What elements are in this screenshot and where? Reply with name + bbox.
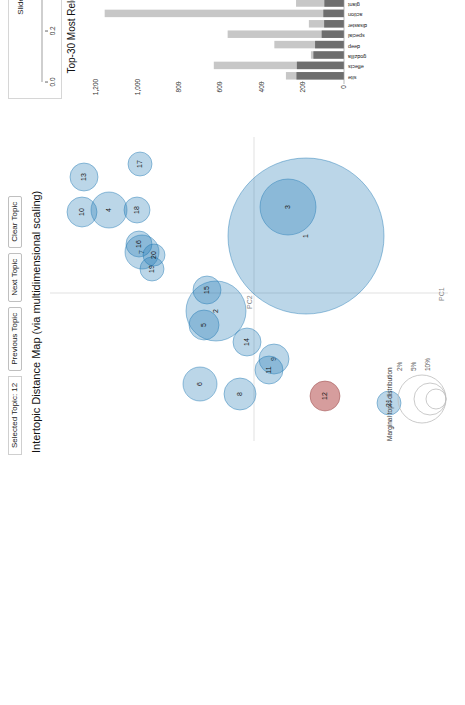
bar-topic-deep[interactable]	[315, 41, 344, 48]
bar-tick-label-0: 0	[340, 85, 347, 89]
bar-tick-label-3: 600	[216, 81, 223, 92]
topic-bubble-label-20: 20	[150, 251, 157, 259]
topic-bubble-label-1: 1	[302, 234, 309, 238]
lambda-value-label: λ = 1	[23, 0, 32, 98]
bar-overall-action[interactable]	[105, 10, 344, 17]
topic-bubble-label-2: 2	[212, 309, 219, 313]
map-title: Intertopic Distance Map (via multidimens…	[30, 191, 42, 453]
selected-topic-value: 12	[10, 383, 19, 392]
bar-tick-label-4: 800	[175, 81, 182, 92]
slider-ticks: 0.00.20.40.60.81	[45, 0, 57, 82]
relevance-slider-box[interactable]: Slide to adjust relevance metric:(2) λ =…	[8, 0, 62, 99]
term-label-action[interactable]: action	[348, 12, 362, 18]
ldavis-app: Selected Topic: 12 Previous Topic Next T…	[0, 0, 465, 465]
intertopic-map-svg[interactable]: PC1 PC2 12345678910111213141516171819202…	[44, 129, 454, 459]
bar-tick-label-2: 400	[258, 81, 265, 92]
rotated-canvas: Selected Topic: 12 Previous Topic Next T…	[0, 0, 465, 465]
bar-topic-giant[interactable]	[324, 0, 344, 7]
term-label-giant[interactable]: giant	[348, 2, 360, 8]
intertopic-distance-panel: Selected Topic: 12 Previous Topic Next T…	[4, 129, 459, 459]
topic-bubble-label-3: 3	[284, 205, 291, 209]
term-label-deep[interactable]: deep	[348, 44, 360, 50]
legend-circle-2	[426, 389, 446, 409]
bar-topic-godzilla[interactable]	[313, 51, 344, 58]
topic-bubble-label-15: 15	[203, 286, 210, 294]
topic-bubble-label-4: 4	[105, 208, 112, 212]
term-label-special[interactable]: special	[348, 33, 365, 39]
term-labels[interactable]: siteeffectsgodzilladeepspecialdisasterac…	[347, 0, 378, 81]
barchart-area[interactable]: 02004006008001,0001,200 siteeffectsgodzi…	[80, 0, 380, 121]
topic-bubble-label-16: 16	[135, 240, 142, 248]
bar-topic-disaster[interactable]	[324, 20, 344, 27]
topic-bubbles[interactable]: 123456789101112131415161718192021	[67, 152, 401, 415]
term-label-disaster[interactable]: disaster	[348, 23, 367, 29]
slider-track[interactable]	[41, 0, 43, 82]
map-area[interactable]: PC1 PC2 12345678910111213141516171819202…	[44, 129, 454, 459]
selected-topic-label: Selected Topic:	[10, 394, 19, 448]
legend-size-10: 10%	[424, 358, 431, 371]
topic-bubble-label-14: 14	[243, 338, 250, 346]
topic-bubble-label-6: 6	[196, 382, 203, 386]
legend-circle-10	[398, 375, 446, 423]
bar-tick-label-6: 1,200	[92, 78, 99, 95]
term-barchart-panel: Slide to adjust relevance metric:(2) λ =…	[4, 0, 459, 125]
clear-topic-button[interactable]: Clear Topic	[8, 196, 23, 248]
topic-bubble-label-12: 12	[321, 392, 328, 400]
bar-topic-action[interactable]	[323, 10, 344, 17]
bar-topic-effects[interactable]	[297, 62, 344, 69]
map-x-axis-label: PC1	[438, 287, 445, 301]
topic-bubble-label-10: 10	[78, 208, 85, 216]
slider-tick-0: 0.0	[45, 77, 56, 86]
topic-bubble-label-13: 13	[80, 173, 87, 181]
term-label-godzilla[interactable]: godzilla	[348, 54, 366, 60]
bar-group[interactable]	[105, 0, 344, 80]
topic-bubble-label-17: 17	[136, 160, 143, 168]
barchart-title: Top-30 Most Relevant Terms for Topic 12 …	[66, 0, 77, 125]
legend-circle-5	[414, 383, 446, 415]
barchart-svg[interactable]: 02004006008001,0001,200 siteeffectsgodzi…	[80, 0, 380, 121]
term-label-effects[interactable]: effects	[348, 64, 364, 70]
bar-tick-label-5: 1,000	[134, 78, 141, 95]
selected-topic-display: Selected Topic: 12	[8, 376, 23, 455]
topic-bubble-label-5: 5	[200, 323, 207, 327]
next-topic-button[interactable]: Next Topic	[8, 253, 23, 302]
topic-controls: Selected Topic: 12 Previous Topic Next T…	[6, 196, 24, 455]
legend-size-2: 2%	[396, 361, 403, 371]
map-y-axis-label: PC2	[246, 295, 253, 309]
topic-bubble-label-11: 11	[265, 366, 272, 373]
bar-tick-label-1: 200	[299, 81, 306, 92]
term-label-site[interactable]: site	[348, 75, 356, 81]
bar-topic-site[interactable]	[296, 72, 344, 79]
topic-bubble-label-18: 18	[133, 206, 140, 214]
slider-tick-1: 0.2	[45, 26, 56, 35]
previous-topic-button[interactable]: Previous Topic	[8, 307, 23, 371]
topic-bubble-label-8: 8	[236, 392, 243, 396]
legend-size-5: 5%	[410, 361, 417, 371]
legend-title: Marginal topic distribution	[386, 367, 394, 441]
bar-topic-special[interactable]	[322, 30, 344, 37]
